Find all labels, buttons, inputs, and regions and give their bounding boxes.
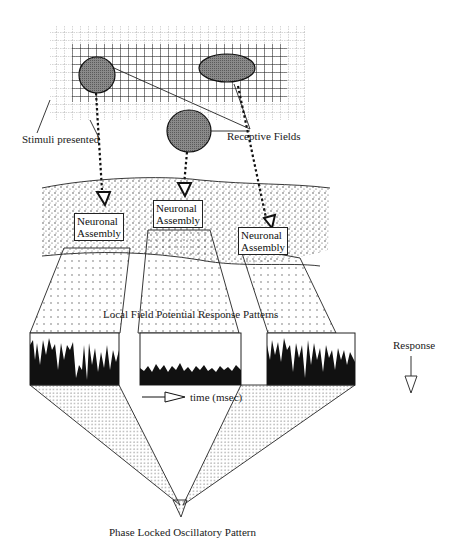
neuronal-assembly-left: Neuronal Assembly	[74, 213, 124, 241]
neuronal-assembly-right: Neuronal Assembly	[238, 227, 288, 255]
receptive-fields-label: Receptive Fields	[227, 131, 301, 142]
phase-locked-label: Phase Locked Oscillatory Pattern	[109, 527, 256, 538]
response-arrow	[405, 356, 417, 393]
lfp-panel-left	[30, 333, 119, 385]
lfp-panel-center	[140, 333, 241, 385]
assembly-line1: Neuronal	[241, 229, 285, 241]
lfp-label: Local Field Potential Response Patterns	[103, 309, 278, 320]
response-label: Response	[393, 340, 435, 351]
convergence-funnel	[30, 385, 355, 517]
lfp-panel-right	[267, 333, 355, 385]
time-label: time (msec)	[190, 392, 242, 403]
assembly-line2: Assembly	[241, 241, 285, 253]
assembly-line1: Neuronal	[156, 202, 200, 214]
assembly-line2: Assembly	[156, 214, 200, 226]
stimuli-presented-label: Stimuli presented	[22, 134, 99, 145]
assembly-line1: Neuronal	[77, 215, 121, 227]
assembly-line2: Assembly	[77, 227, 121, 239]
receptive-field-right	[199, 54, 255, 82]
time-arrow	[142, 392, 185, 402]
neuronal-assembly-center: Neuronal Assembly	[153, 200, 203, 228]
diagram-canvas	[0, 0, 460, 555]
receptive-field-center	[167, 110, 211, 152]
receptive-field-left	[79, 57, 115, 93]
